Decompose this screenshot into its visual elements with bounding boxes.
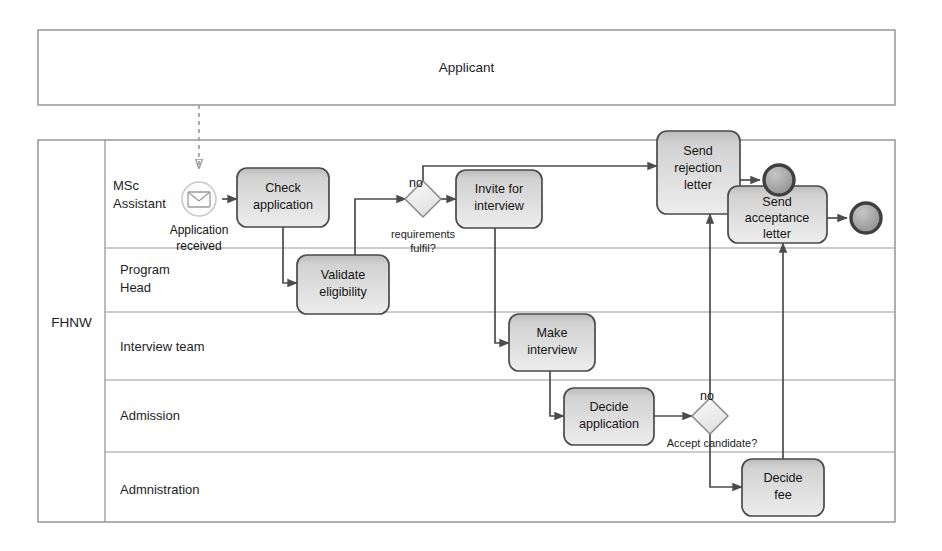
lane-label-administration: Admnistration	[120, 482, 199, 497]
svg-text:letter: letter	[684, 178, 712, 192]
flow-label-no-requirements: no	[409, 176, 423, 190]
pool-applicant-label: Applicant	[439, 60, 495, 75]
svg-text:eligibility: eligibility	[319, 285, 367, 299]
event-end-acceptance[interactable]	[851, 203, 881, 233]
lane-label-interview-team: Interview team	[120, 339, 205, 354]
lane-label-admission: Admission	[120, 408, 180, 423]
svg-text:Make: Make	[537, 326, 568, 340]
svg-text:Send: Send	[762, 195, 791, 209]
svg-text:MSc: MSc	[113, 178, 140, 193]
start-event-label-line2: received	[176, 239, 221, 253]
task-validate-eligibility[interactable]: Validate eligibility	[297, 255, 389, 314]
svg-text:Accept candidate?: Accept candidate?	[667, 437, 758, 449]
start-event-circle	[182, 182, 216, 216]
svg-text:Decide: Decide	[589, 400, 628, 414]
start-event-label-line1: Application	[170, 223, 229, 237]
svg-text:letter: letter	[763, 227, 791, 241]
svg-text:Check: Check	[265, 181, 301, 195]
svg-text:requirements: requirements	[391, 228, 456, 240]
svg-text:fulfil?: fulfil?	[410, 242, 436, 254]
svg-text:Assistant: Assistant	[113, 196, 166, 211]
end-event-rejection-circle	[764, 165, 794, 195]
svg-text:Admnistration: Admnistration	[120, 482, 199, 497]
task-decide-fee[interactable]: Decide fee	[742, 459, 824, 516]
svg-text:Program: Program	[120, 262, 170, 277]
end-event-acceptance-circle	[851, 203, 881, 233]
svg-text:Validate: Validate	[321, 268, 366, 282]
task-invite-for-interview[interactable]: Invite for interview	[456, 170, 542, 228]
flow-label-no-accept: no	[700, 389, 714, 403]
svg-text:Admission: Admission	[120, 408, 180, 423]
svg-text:application: application	[253, 198, 313, 212]
svg-text:interview: interview	[527, 343, 578, 357]
event-end-rejection[interactable]	[764, 165, 794, 195]
svg-text:application: application	[579, 417, 639, 431]
bpmn-diagram-canvas: Applicant FHNW MSc Assistant Program Hea…	[0, 0, 942, 551]
svg-text:interview: interview	[474, 199, 525, 213]
svg-text:fee: fee	[774, 488, 792, 502]
task-make-interview[interactable]: Make interview	[509, 314, 595, 371]
svg-text:Invite for: Invite for	[475, 182, 523, 196]
svg-text:Send: Send	[683, 144, 712, 158]
bpmn-svg-root: Applicant FHNW MSc Assistant Program Hea…	[0, 0, 942, 551]
svg-text:Decide: Decide	[763, 471, 802, 485]
pool-fhnw-label: FHNW	[51, 315, 92, 330]
svg-text:Head: Head	[120, 280, 151, 295]
svg-text:acceptance: acceptance	[745, 211, 809, 225]
svg-text:rejection: rejection	[674, 161, 722, 175]
task-decide-application[interactable]: Decide application	[564, 388, 654, 445]
svg-text:Interview team: Interview team	[120, 339, 205, 354]
task-check-application[interactable]: Check application	[237, 168, 329, 227]
pool-applicant: Applicant	[38, 30, 895, 105]
